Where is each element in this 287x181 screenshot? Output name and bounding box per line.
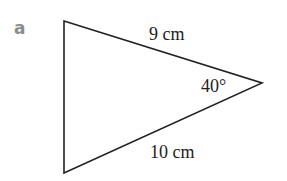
side-top-label: 9 cm — [149, 24, 185, 44]
diagram-canvas: a 9 cm 40° 10 cm — [0, 0, 287, 181]
triangle-figure: 9 cm 40° 10 cm — [0, 0, 287, 181]
angle-label: 40° — [201, 76, 226, 96]
side-bottom-label: 10 cm — [150, 142, 195, 162]
